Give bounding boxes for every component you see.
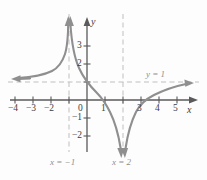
horizontal-asymptote-label: y = 1 — [146, 70, 165, 79]
y-tick-label-3: 3 — [77, 41, 82, 51]
vertical-asymptote-right-label: x = 2 — [112, 158, 131, 167]
curve-right-branch — [126, 84, 186, 148]
x-tick-label-5: 5 — [173, 104, 178, 114]
curve-left-tail — [19, 78, 30, 79]
x-tick-label--2: −2 — [44, 104, 54, 114]
vertical-asymptote-left-label: x = −1 — [50, 158, 75, 167]
graph-figure: −4 −3 −2 0 1 3 4 5 3 2 −1 −2 x y y = 1 x… — [0, 0, 207, 180]
x-tick-label--3: −3 — [26, 104, 36, 114]
y-tick-label--2: −2 — [72, 131, 82, 141]
x-tick-label-3: 3 — [137, 104, 142, 114]
y-axis-label: y — [91, 17, 95, 27]
curve-right-arrow-right — [184, 80, 194, 87]
x-tick-label-1: 1 — [101, 104, 106, 114]
y-tick-label--1: −1 — [72, 113, 82, 123]
x-tick-label--4: −4 — [8, 104, 18, 114]
y-tick-label-2: 2 — [77, 59, 82, 69]
x-tick-label-4: 4 — [155, 104, 160, 114]
x-axis-label: x — [187, 105, 191, 115]
coordinate-plot — [0, 0, 207, 180]
x-axis-arrow-right — [189, 97, 198, 104]
curve-left-branch — [18, 24, 68, 78]
y-axis-arrow-up — [84, 17, 91, 26]
